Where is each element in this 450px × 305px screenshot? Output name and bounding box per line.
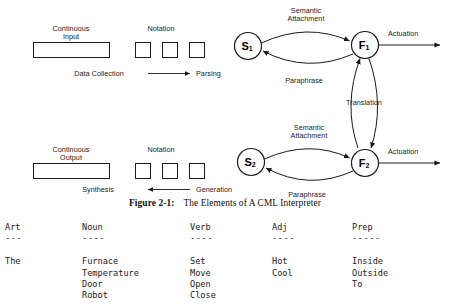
figure-caption: Figure 2-1: The Elements of A CML Interp… [0,198,450,208]
continuous-output-label-line2: Output [60,154,82,162]
notation-square-bottom-1 [136,164,151,179]
continuous-input-label-line2: Input [63,33,79,41]
lexicon-table: Art---The Noun----FurnaceTemperatureDoor… [0,222,450,305]
lexicon-column-header: Noun [82,222,139,233]
figure-caption-text: The Elements of A CML Interpreter [183,198,321,208]
node-label-F1: F1 [359,39,370,52]
paraphrase-label-top: Paraphrase [285,77,323,85]
cml-interpreter-diagram: Continuous Input Notation Data Collectio… [0,0,450,218]
lexicon-column-art: Art---The [5,222,22,268]
lexicon-column-rule: ---- [82,233,139,244]
lexicon-entry: Furnace [82,256,139,267]
lexicon-column-spacer [352,245,388,256]
synthesis-label: Synthesis [82,186,114,194]
translation-label: Translation [346,99,382,107]
lexicon-entry: Close [190,290,216,301]
notation-square-top-3 [190,43,205,58]
lexicon-column-adj: Adj----HotCool [272,222,295,279]
lexicon-entry: Cool [272,268,295,279]
lexicon-entry: Set [190,256,216,267]
lexicon-entry: To [352,279,388,290]
node-label-S1: S1 [241,40,252,53]
lexicon-column-header: Art [5,222,22,233]
lexicon-column-prep: Prep-----InsideOutsideTo [352,222,388,290]
lexicon-entry: Move [190,268,216,279]
node-label-S2: S2 [244,156,255,169]
lexicon-entry: The [5,256,22,267]
lexicon-column-spacer [190,245,216,256]
notation-square-top-2 [163,43,178,58]
lexicon-entry: Outside [352,268,388,279]
notation-square-bottom-3 [190,164,205,179]
generation-label: Generation [196,186,232,194]
parsing-label: Parsing [196,70,221,78]
lexicon-column-header: Prep [352,222,388,233]
lexicon-entry: Door [82,279,139,290]
semantic-attachment-label-top-line2: Attachment [288,15,325,23]
lexicon-entry: Robot [82,290,139,301]
edge-paraphrase-bottom [266,168,353,180]
lexicon-column-rule: ----- [352,233,388,244]
lexicon-column-verb: Verb----SetMoveOpenClose [190,222,216,302]
notation-label-top: Notation [147,25,174,33]
notation-square-top-1 [136,43,151,58]
notation-square-bottom-2 [163,164,178,179]
figure-caption-label: Figure 2-1: [129,198,174,208]
notation-label-bottom: Notation [147,146,174,154]
lexicon-column-spacer [272,245,295,256]
continuous-input-box [34,43,110,58]
lexicon-column-rule: --- [5,233,22,244]
lexicon-column-spacer [82,245,139,256]
edge-semantic-attachment-bottom [265,149,350,159]
lexicon-column-rule: ---- [190,233,216,244]
edge-semantic-attachment-top [262,32,350,43]
lexicon-entry: Hot [272,256,295,267]
lexicon-entry: Temperature [82,268,139,279]
lexicon-entry: Inside [352,256,388,267]
figure-page: Continuous Input Notation Data Collectio… [0,0,450,305]
actuation-label-bottom: Actuation [388,148,418,156]
data-collection-label: Data Collection [74,70,124,78]
lexicon-column-spacer [5,245,22,256]
node-label-F2: F2 [359,157,370,170]
continuous-output-box [34,164,110,179]
lexicon-column-noun: Noun----FurnaceTemperatureDoorRobot [82,222,139,302]
edge-paraphrase-top [263,51,353,63]
lexicon-column-header: Adj [272,222,295,233]
semantic-attachment-label-bottom-line2: Attachment [291,132,328,140]
lexicon-column-rule: ---- [272,233,295,244]
lexicon-entry: Open [190,279,216,290]
actuation-label-top: Actuation [388,30,418,38]
lexicon-column-header: Verb [190,222,216,233]
